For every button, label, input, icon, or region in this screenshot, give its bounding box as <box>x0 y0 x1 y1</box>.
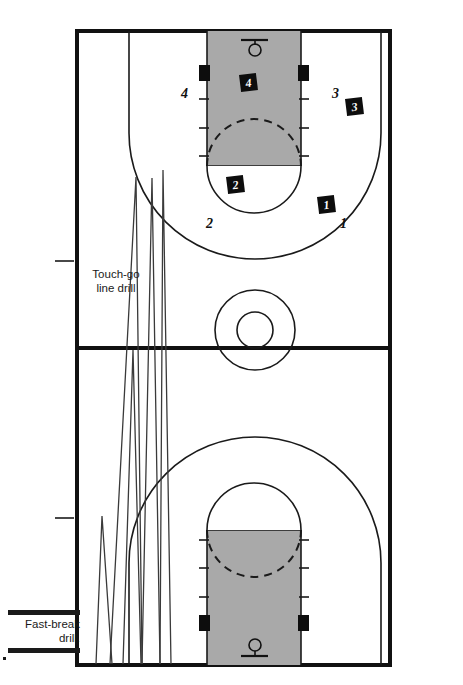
fast-break-label-line1: Fast-break <box>8 618 80 632</box>
court-svg <box>0 0 463 685</box>
lane-block-right-top <box>298 65 309 81</box>
label-4-left: 4 <box>181 86 188 102</box>
page-corner-dot <box>3 657 6 660</box>
paint-key-bottom <box>207 530 301 665</box>
fast-break-drill-block: Fast-break drill. <box>8 610 80 653</box>
fast-break-drill-label: Fast-break drill. <box>8 615 80 648</box>
basketball-court-diagram: Touch-go line drill Fast-break drill. 43… <box>0 0 463 685</box>
lane-block-right-bottom <box>298 615 309 631</box>
fast-break-rule-bottom <box>8 648 80 653</box>
label-1-right: 1 <box>340 216 347 232</box>
paint-key-top <box>207 31 301 166</box>
touch-go-label-line1: Touch-go <box>77 268 155 282</box>
chip-3: 3 <box>345 97 364 116</box>
touch-go-label-line2: line drill <box>77 282 155 296</box>
label-2-bottom: 2 <box>206 216 213 232</box>
chip-2: 2 <box>226 175 245 194</box>
lane-block-left-top <box>199 65 210 81</box>
touch-go-drill-label: Touch-go line drill <box>77 268 155 295</box>
fast-break-label-line2: drill. <box>8 632 80 646</box>
label-3-right: 3 <box>332 86 339 102</box>
chip-4: 4 <box>239 73 258 92</box>
lane-block-left-bottom <box>199 615 210 631</box>
chip-1: 1 <box>317 195 336 214</box>
